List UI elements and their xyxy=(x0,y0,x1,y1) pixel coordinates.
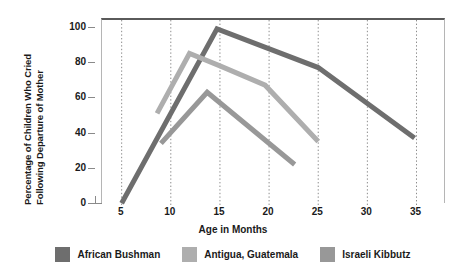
y-tick-label: 60 xyxy=(52,91,86,102)
x-tick-label: 15 xyxy=(204,206,234,217)
legend-swatch xyxy=(55,247,70,262)
chart-figure: Percentage of Children Who Cried Followi… xyxy=(0,0,466,271)
series-line xyxy=(122,29,415,203)
legend-swatch xyxy=(320,247,335,262)
y-axis-tick-labels: 020406080100 xyxy=(52,0,86,215)
y-tick-label: 40 xyxy=(52,127,86,138)
y-tick-mark xyxy=(88,62,95,63)
y-tick-label: 0 xyxy=(52,197,86,208)
x-tick-label: 10 xyxy=(155,206,185,217)
y-axis-corner-line xyxy=(95,196,96,204)
x-tick-label: 25 xyxy=(302,206,332,217)
y-tick-mark xyxy=(88,97,95,98)
y-axis-title-line-1: Percentage of Children Who Cried xyxy=(22,54,33,205)
y-tick-mark xyxy=(88,133,95,134)
legend-item[interactable]: Israeli Kibbutz xyxy=(320,247,410,262)
legend-label: African Bushman xyxy=(77,249,160,260)
x-tick-label: 30 xyxy=(351,206,381,217)
x-axis-corner-stub xyxy=(95,203,102,204)
y-axis-title-line-2: Following Departure of Mother xyxy=(34,70,45,205)
series-lines xyxy=(122,29,415,203)
x-axis-title: Age in Months xyxy=(0,224,466,235)
series-line xyxy=(161,92,295,164)
y-axis-title: Percentage of Children Who Cried Followi… xyxy=(0,0,40,215)
y-tick-label: 100 xyxy=(52,21,86,32)
plot-area xyxy=(101,18,445,203)
plot-canvas xyxy=(101,18,447,206)
y-tick-label: 20 xyxy=(52,162,86,173)
x-tick-label: 35 xyxy=(401,206,431,217)
chart-legend: African BushmanAntigua, GuatemalaIsraeli… xyxy=(0,243,466,265)
y-tick-mark xyxy=(88,203,95,204)
legend-item[interactable]: African Bushman xyxy=(55,247,160,262)
legend-item[interactable]: Antigua, Guatemala xyxy=(182,247,298,262)
legend-swatch xyxy=(182,247,197,262)
x-tick-label: 5 xyxy=(106,206,136,217)
legend-label: Antigua, Guatemala xyxy=(204,249,298,260)
y-tick-mark xyxy=(88,27,95,28)
x-tick-label: 20 xyxy=(253,206,283,217)
legend-label: Israeli Kibbutz xyxy=(342,249,410,260)
y-tick-label: 80 xyxy=(52,56,86,67)
y-tick-mark xyxy=(88,168,95,169)
